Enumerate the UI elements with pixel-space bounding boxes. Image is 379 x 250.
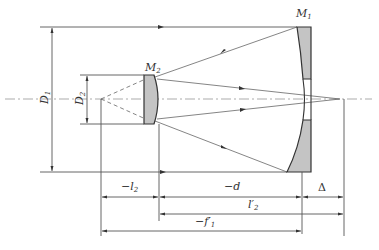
label-d1: D1 [38, 91, 52, 105]
label-d2: D2 [73, 91, 87, 106]
label-m1: M1 [295, 7, 312, 21]
ray-arrow-icon [158, 25, 164, 29]
reflected-rays-primary [155, 27, 297, 172]
primary-mirror [287, 27, 311, 172]
label-l2-prime: l′2 [248, 198, 259, 212]
label-minus-l2: −l2 [121, 180, 139, 194]
label-delta: Δ [318, 181, 326, 194]
label-m2: M2 [144, 61, 161, 75]
label-minus-f1-prime: −f′1 [195, 215, 215, 229]
cassegrain-diagram: M1 M2 D1 D2 −l2 −d Δ l′2 −f′1 [0, 0, 379, 250]
ray-arrow-icon [160, 170, 166, 174]
label-minus-d: −d [224, 180, 240, 193]
secondary-mirror [144, 75, 158, 124]
